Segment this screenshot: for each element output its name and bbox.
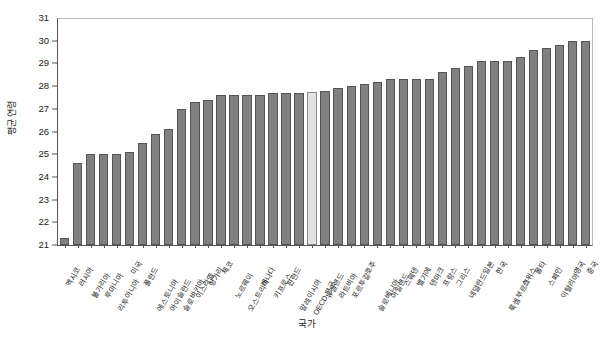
x-axis-tick-mark (91, 245, 92, 248)
y-axis-tick-mark (52, 131, 57, 132)
bar-slot (110, 18, 123, 245)
x-axis-tick: 스웨덴 (397, 248, 410, 310)
bar (216, 95, 225, 245)
x-axis-tick: 몰타 (527, 248, 540, 310)
x-axis-tick-mark (338, 245, 339, 248)
bar (99, 154, 108, 245)
x-axis-tick-mark (143, 245, 144, 248)
x-axis-tick-mark (508, 245, 509, 248)
y-axis-tick-label: 22 (0, 218, 56, 228)
x-axis-tick-mark (495, 245, 496, 248)
bar-slot (579, 18, 592, 245)
bar (255, 95, 264, 245)
x-axis-tick-mark (221, 245, 222, 248)
bar (464, 66, 473, 245)
bar-slot (397, 18, 410, 245)
x-axis-tick: 그리스 (449, 248, 462, 310)
bar (125, 152, 134, 245)
bar (347, 86, 356, 245)
x-axis-tick-mark (547, 245, 548, 248)
bar-slot (501, 18, 514, 245)
x-axis-tick: 오스트리아 (240, 248, 253, 310)
bar-slot (136, 18, 149, 245)
x-axis-tick-mark (182, 245, 183, 248)
x-axis-tick: 러시아 (71, 248, 84, 310)
bar (386, 79, 395, 245)
bar (164, 129, 173, 245)
x-axis-tick: 호주 (358, 248, 371, 310)
x-axis-tick: 키프로스 (267, 248, 280, 310)
x-axis-tick: 벨기에 (410, 248, 423, 310)
x-axis-tick-mark (260, 245, 261, 248)
x-axis-tick: 이스라엘 (188, 248, 201, 310)
x-axis-tick: 리투아니아 (110, 248, 123, 310)
bar (360, 84, 369, 245)
bar-slot (462, 18, 475, 245)
x-axis-tick: 폴란드 (136, 248, 149, 310)
bar-slot (345, 18, 358, 245)
x-axis-tick-mark (299, 245, 300, 248)
x-axis-tick-mark (403, 245, 404, 248)
x-axis-tick: 포르투갈 (345, 248, 358, 310)
bar (542, 48, 551, 245)
x-axis-tick: 일본 (475, 248, 488, 310)
y-axis-tick-label: 25 (0, 149, 56, 159)
bar-slot (540, 18, 553, 245)
bar (438, 72, 447, 245)
bar-slot (371, 18, 384, 245)
bar-slot (280, 18, 293, 245)
x-axis-tick: 스위스 (514, 248, 527, 310)
bar-slot (488, 18, 501, 245)
x-axis-tick: 프랑스 (436, 248, 449, 310)
x-axis-tick-mark (364, 245, 365, 248)
x-axis-tick-mark (586, 245, 587, 248)
x-axis-tick-mark (208, 245, 209, 248)
bar (503, 61, 512, 245)
x-axis-tick: 룩셈부르크 (501, 248, 514, 310)
y-axis-tick-mark (52, 176, 57, 177)
y-axis-tick-mark (52, 108, 57, 109)
x-axis-tick-mark (416, 245, 417, 248)
bar (307, 92, 316, 245)
bar (86, 154, 95, 245)
y-axis-tick-label: 29 (0, 59, 56, 69)
x-axis-tick-mark (234, 245, 235, 248)
x-axis-tick-mark (390, 245, 391, 248)
bar (268, 93, 277, 245)
bar (112, 154, 121, 245)
bar (151, 134, 160, 245)
bar-slot (514, 18, 527, 245)
y-axis-tick-label: 24 (0, 172, 56, 182)
x-axis-tick: 스페인 (540, 248, 553, 310)
bar-slot (475, 18, 488, 245)
bar (60, 238, 69, 245)
bar-slot (71, 18, 84, 245)
bar-slot (227, 18, 240, 245)
x-axis-tick: 뉴질랜드 (319, 248, 332, 310)
x-axis-tick-mark (351, 245, 352, 248)
x-axis-tick-mark (130, 245, 131, 248)
x-axis-labels: 멕시코러시아불가리아루마니아리투아니아미국폴란드에스토니아아이슬란드슬로바키아이… (58, 248, 592, 310)
x-axis-tick-mark (482, 245, 483, 248)
x-axis-tick: 중국 (579, 248, 592, 310)
y-axis-tick-mark (52, 86, 57, 87)
bar-slot (162, 18, 175, 245)
bar (242, 95, 251, 245)
bar (229, 95, 238, 245)
x-axis-tick: 멕시코 (58, 248, 71, 310)
bar-slot (553, 18, 566, 245)
x-axis-tick: 아이슬란드 (162, 248, 175, 310)
y-axis-tick-label: 31 (0, 13, 56, 23)
x-axis-tick: 덴마크 (423, 248, 436, 310)
x-axis-tick-mark (325, 245, 326, 248)
bar-slot (201, 18, 214, 245)
x-axis-tick-mark (560, 245, 561, 248)
bar-slot (319, 18, 332, 245)
bar (399, 79, 408, 245)
bar-slot (410, 18, 423, 245)
x-axis-tick-mark (455, 245, 456, 248)
x-axis-tick-mark (117, 245, 118, 248)
x-axis-tick-mark (247, 245, 248, 248)
bar (320, 91, 329, 245)
x-axis-tick: 이탈리아 (553, 248, 566, 310)
